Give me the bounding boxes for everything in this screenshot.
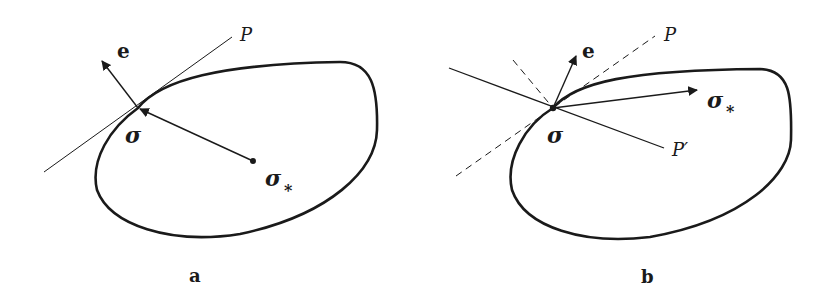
label-p-prime: P′ (671, 139, 688, 160)
label-sigma: σ (547, 122, 564, 148)
label-e: e (117, 39, 130, 63)
label-p: P (239, 24, 253, 45)
panel-a: e P σ σ * a (44, 24, 377, 286)
label-sigma: σ (125, 122, 142, 148)
label-e: e (582, 39, 595, 63)
yield-surface-curve (511, 69, 792, 239)
tangent-line-p (44, 37, 232, 172)
yield-surface-curve (96, 62, 378, 237)
figure-canvas: e P σ σ * a e P σ P′ σ * b (0, 0, 824, 297)
caption-a: a (189, 265, 201, 286)
label-sigma-star-subscript: * (284, 181, 293, 200)
label-sigma-star: σ (265, 165, 282, 191)
caption-b: b (641, 266, 654, 287)
panel-b: e P σ P′ σ * b (449, 24, 791, 287)
label-sigma-star: σ (707, 87, 724, 113)
arrow-sigma-star-to-sigma (140, 109, 253, 161)
label-p: P (663, 24, 677, 45)
label-sigma-star-subscript: * (726, 102, 735, 121)
tangent-line-p-dashed (456, 36, 655, 176)
normal-line-dashed (513, 60, 553, 108)
sigma-point (550, 105, 556, 111)
sigma-star-point (250, 158, 256, 164)
normal-arrow-e (102, 61, 138, 108)
